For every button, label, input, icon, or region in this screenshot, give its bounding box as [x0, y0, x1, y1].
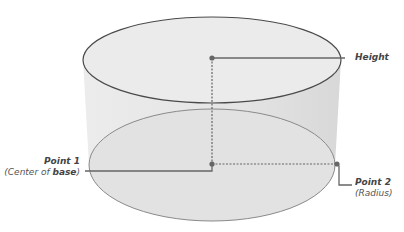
height-label: Height [355, 52, 389, 63]
point2-leader [337, 164, 352, 185]
point1-title: Point 1 [44, 156, 80, 166]
point1-sub-prefix: (Center of [4, 167, 52, 177]
point1-sub-suffix: ) [76, 167, 80, 177]
height-label-text: Height [355, 52, 389, 62]
height-point-dot [209, 55, 214, 60]
point2-label: Point 2 (Radius) [355, 177, 392, 199]
point2-sub: (Radius) [355, 188, 392, 199]
point2-title: Point 2 [355, 177, 391, 187]
point2-dot [334, 161, 339, 166]
point1-sub-bold: base [53, 167, 77, 177]
point1-label: Point 1 (Center of base) [4, 156, 80, 178]
cylinder-diagram [0, 0, 404, 232]
point1-dot [209, 161, 214, 166]
